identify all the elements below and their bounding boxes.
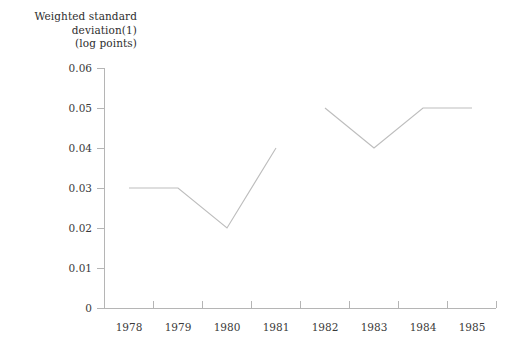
x-tick-label-1983: 1983 bbox=[350, 322, 398, 333]
x-axis-ticks bbox=[105, 301, 497, 308]
x-tick-label-1981: 1981 bbox=[252, 322, 300, 333]
data-line-segment-1 bbox=[129, 148, 276, 228]
x-tick-label-1984: 1984 bbox=[399, 322, 447, 333]
x-tick-label-1978: 1978 bbox=[105, 322, 153, 333]
y-tick-label-0.03: 0.03 bbox=[30, 183, 92, 194]
y-axis-ticks bbox=[97, 69, 104, 309]
x-tick-label-1980: 1980 bbox=[203, 322, 251, 333]
y-tick-label-0.02: 0.02 bbox=[30, 223, 92, 234]
x-tick-label-1982: 1982 bbox=[301, 322, 349, 333]
y-tick-label-0.01: 0.01 bbox=[30, 263, 92, 274]
y-tick-label-0: 0 bbox=[30, 303, 92, 314]
x-tick-label-1985: 1985 bbox=[448, 322, 496, 333]
data-line-segment-2 bbox=[325, 108, 472, 148]
chart-figure: Weighted standard deviation(1) (log poin… bbox=[0, 0, 522, 362]
y-tick-label-0.06: 0.06 bbox=[30, 63, 92, 74]
y-tick-label-0.04: 0.04 bbox=[30, 143, 92, 154]
y-tick-label-0.05: 0.05 bbox=[30, 103, 92, 114]
x-tick-label-1979: 1979 bbox=[154, 322, 202, 333]
